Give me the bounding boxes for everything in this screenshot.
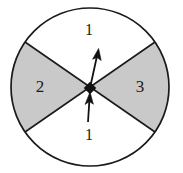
sector-right-label: 3 xyxy=(136,77,145,96)
spinner-diagram: 2 3 1 1 xyxy=(0,0,183,173)
spinner-svg: 2 3 1 1 xyxy=(0,0,183,173)
sector-left-label: 2 xyxy=(36,77,45,96)
arrow-upper-label: 1 xyxy=(85,21,93,38)
arrow-lower-label: 1 xyxy=(85,126,93,143)
